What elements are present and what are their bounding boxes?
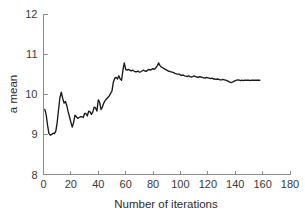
y-tick-label: 9 — [31, 128, 37, 140]
y-axis: 89101112 — [25, 8, 47, 181]
y-tick-marks — [44, 14, 48, 175]
x-tick-label: 100 — [171, 178, 189, 190]
x-tick-labels: 020406080100120140160180 — [40, 178, 299, 190]
x-tick-label: 140 — [226, 178, 244, 190]
x-tick-label: 20 — [65, 178, 77, 190]
x-axis: 020406080100120140160180 — [40, 171, 299, 190]
x-tick-label: 180 — [281, 178, 299, 190]
y-tick-label: 11 — [26, 48, 37, 60]
x-tick-marks — [44, 171, 291, 175]
y-tick-label: 12 — [25, 8, 37, 20]
chart-figure: 89101112 020406080100120140160180 Number… — [0, 0, 305, 215]
x-tick-label: 0 — [40, 178, 46, 190]
x-tick-label: 80 — [147, 178, 159, 190]
y-tick-label: 10 — [25, 88, 37, 100]
y-axis-title: a mean — [7, 75, 19, 113]
y-tick-labels: 89101112 — [25, 8, 37, 181]
x-tick-label: 160 — [253, 178, 271, 190]
line-chart: 89101112 020406080100120140160180 Number… — [0, 0, 305, 215]
x-axis-title: Number of iterations — [114, 198, 218, 210]
y-tick-label: 8 — [31, 169, 37, 181]
x-tick-label: 120 — [199, 178, 217, 190]
data-series-line — [45, 63, 260, 135]
x-tick-label: 40 — [92, 178, 104, 190]
x-tick-label: 60 — [120, 178, 132, 190]
